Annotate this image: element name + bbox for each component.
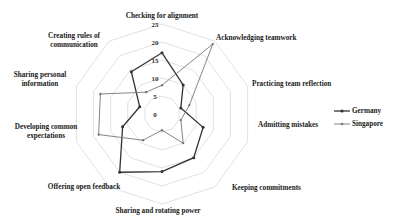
data-point — [97, 133, 99, 135]
data-point — [182, 142, 184, 144]
data-point — [180, 119, 182, 121]
tick-label: 0 — [153, 111, 157, 119]
data-point — [179, 106, 182, 109]
radar-grid — [76, 24, 247, 204]
data-point — [161, 170, 164, 173]
legend-label-germany: Germany — [352, 107, 381, 115]
axis-label: information — [22, 80, 59, 88]
axis-labels: Checking for alignmentAcknowledging team… — [14, 12, 332, 215]
axis-label: Checking for alignment — [126, 12, 199, 20]
axis-label: Acknowledging teamwork — [216, 34, 296, 42]
data-point — [188, 104, 190, 106]
legend-item-germany: Germany — [334, 104, 383, 117]
tick-label: 10 — [152, 75, 160, 83]
axis-label: Creating rules of — [48, 32, 100, 40]
data-point — [161, 129, 163, 131]
data-point — [121, 125, 124, 128]
data-point — [138, 105, 141, 108]
legend: Germany Singapore — [334, 104, 383, 130]
tick-label: 20 — [152, 39, 160, 47]
axis-label: Sharing personal — [14, 71, 67, 79]
axis-label: Practicing team reflection — [252, 80, 331, 88]
singapore-line-marker-icon — [334, 120, 350, 128]
legend-label-singapore: Singapore — [352, 120, 383, 128]
radial-tick-labels: 0510152025 — [152, 21, 160, 119]
data-point — [130, 70, 133, 73]
data-point — [118, 171, 121, 174]
axis-label: Developing common — [15, 123, 78, 131]
data-point — [202, 126, 205, 129]
data-point — [145, 91, 147, 93]
grid-ring — [111, 60, 214, 168]
data-point — [161, 51, 164, 54]
axis-label: expectations — [27, 132, 65, 140]
data-point — [161, 84, 163, 86]
data-point — [192, 156, 195, 159]
tick-label: 5 — [153, 93, 157, 101]
axis-label: Offering open feedback — [48, 183, 120, 191]
data-point — [182, 83, 185, 86]
data-point — [99, 93, 101, 95]
germany-line-marker-icon — [334, 107, 350, 115]
axis-label: Admitting mistakes — [258, 121, 318, 129]
axis-label: Sharing and rotating power — [115, 207, 201, 215]
legend-item-singapore: Singapore — [334, 117, 383, 130]
data-point — [212, 43, 214, 45]
grid-ring — [145, 96, 179, 132]
tick-label: 15 — [152, 57, 160, 65]
axis-label: Keeping commitments — [232, 184, 301, 192]
grid-ring — [76, 24, 247, 204]
grid-ring — [94, 42, 231, 186]
axis-label: communication — [50, 41, 98, 49]
data-point — [142, 139, 144, 141]
tick-label: 25 — [152, 21, 160, 29]
